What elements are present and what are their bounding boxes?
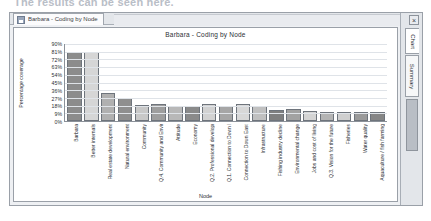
x-tick-label: Water quality	[362, 124, 368, 153]
x-axis-tick-labels: BarbaraBetter internalsReal estate devel…	[64, 123, 387, 185]
x-tick-slot: Fisheries	[336, 123, 353, 185]
x-tick-label: Fisheries	[345, 124, 351, 144]
x-tick-slot: Natural environment	[115, 123, 132, 185]
vertical-tab-summary[interactable]: Summary	[405, 55, 419, 97]
x-tick-slot: Connection to Down East	[234, 123, 251, 185]
x-tick-label: Aquaculture / fish farming	[379, 124, 385, 181]
grid-line	[65, 106, 387, 107]
y-tick-label: 54%	[52, 72, 62, 78]
x-tick-slot: Real estate development	[98, 123, 115, 185]
x-tick-label: Barbara	[73, 124, 79, 142]
screenshot-root: The results can be seen here. Barbara - …	[0, 0, 431, 221]
x-tick-label: Attitude	[175, 124, 181, 141]
y-tick-label: 90%	[52, 41, 62, 47]
x-tick-label: Economy	[192, 124, 198, 145]
y-tick-label: 81%	[52, 49, 62, 55]
y-tick-label: 0%	[55, 119, 63, 125]
x-tick-label: Infrastructure	[260, 124, 266, 153]
y-tick-label: 63%	[52, 64, 62, 70]
clipped-caption: The results can be seen here.	[14, 0, 274, 8]
vertical-tab-summary-label: Summary	[409, 63, 416, 89]
y-tick-label: 27%	[52, 96, 62, 102]
x-tick-slot: Q.4. Community and Environment	[149, 123, 166, 185]
grid-line	[65, 113, 387, 114]
x-tick-slot: Community	[132, 123, 149, 185]
bar[interactable]	[67, 52, 81, 121]
bar[interactable]	[303, 111, 317, 121]
grid-line	[65, 83, 387, 84]
chart-window: Barbara - Coding by Node × Chart Summary…	[9, 12, 423, 206]
y-axis-tick-labels: 90%81%72%63%54%45%36%27%18%9%0%	[36, 44, 62, 122]
chart-panel: Barbara - Coding by Node Percentage cove…	[13, 27, 398, 202]
x-tick-label: Better internals	[90, 124, 96, 158]
grid-line	[65, 67, 387, 68]
bar[interactable]	[84, 52, 98, 121]
vertical-tab-chart-label: Chart	[409, 34, 416, 49]
chart-document-icon	[17, 16, 25, 24]
x-tick-label: Q.2. Professional development	[209, 124, 215, 182]
tab-strip: Barbara - Coding by Node	[10, 13, 400, 25]
x-tick-slot: Q.1. Connection to Down East	[217, 123, 234, 185]
grid-line	[65, 75, 387, 76]
rail-scrollbar[interactable]	[406, 99, 418, 151]
bar[interactable]	[269, 110, 283, 121]
x-tick-label: Q.3. Vision for the future	[328, 124, 334, 178]
vertical-tab-chart[interactable]: Chart	[405, 28, 419, 54]
x-tick-label: Connection to Down East	[243, 124, 249, 180]
tab-label: Barbara - Coding by Node	[28, 15, 98, 24]
right-tab-rail: × Chart Summary	[400, 13, 422, 205]
y-tick-label: 72%	[52, 57, 62, 63]
x-tick-slot: Q.2. Professional development	[200, 123, 217, 185]
y-axis-title-label: Percentage coverage	[18, 58, 24, 107]
grid-line	[65, 98, 387, 99]
x-tick-slot: Infrastructure	[251, 123, 268, 185]
grid-line	[65, 44, 387, 45]
chart-title: Barbara - Coding by Node	[14, 31, 397, 38]
x-tick-slot: Attitude	[166, 123, 183, 185]
x-tick-slot: Economy	[183, 123, 200, 185]
x-tick-label: Q.1. Connection to Down East	[226, 124, 232, 182]
plot-area	[64, 44, 387, 122]
x-tick-slot: Fishing industry decline	[268, 123, 285, 185]
x-axis-title: Node	[14, 193, 397, 199]
close-icon[interactable]: ×	[409, 15, 419, 25]
bar[interactable]	[286, 109, 300, 121]
tab-strip-empty	[114, 14, 400, 26]
x-tick-label: Fishing industry decline	[277, 124, 283, 176]
grid-line	[65, 52, 387, 53]
y-axis-title: Percentage coverage	[16, 44, 26, 122]
grid-line	[65, 90, 387, 91]
grid-line	[65, 59, 387, 60]
x-tick-label: Q.4. Community and Environment	[158, 124, 164, 182]
y-tick-label: 18%	[52, 103, 62, 109]
y-tick-label: 36%	[52, 88, 62, 94]
x-tick-slot: Better internals	[81, 123, 98, 185]
x-tick-label: Real estate development	[107, 124, 113, 179]
y-tick-label: 9%	[55, 111, 63, 117]
x-tick-label: Natural environment	[124, 124, 130, 169]
x-tick-label: Environmental change	[294, 124, 300, 174]
x-tick-slot: Jobs and cost of living	[302, 123, 319, 185]
x-tick-label: Community	[141, 124, 147, 149]
x-tick-slot: Environmental change	[285, 123, 302, 185]
x-tick-slot: Aquaculture / fish farming	[370, 123, 387, 185]
x-tick-slot: Q.3. Vision for the future	[319, 123, 336, 185]
tab-barbara-coding-by-node[interactable]: Barbara - Coding by Node	[13, 13, 104, 25]
x-tick-slot: Water quality	[353, 123, 370, 185]
bar[interactable]	[118, 98, 132, 121]
x-tick-slot: Barbara	[64, 123, 81, 185]
x-tick-label: Jobs and cost of living	[311, 124, 317, 173]
y-tick-label: 45%	[52, 80, 62, 86]
